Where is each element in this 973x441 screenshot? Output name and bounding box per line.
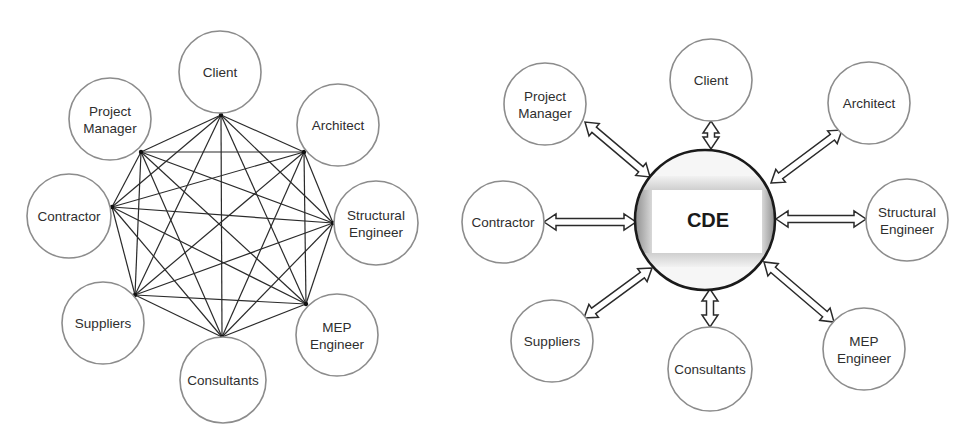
stakeholder-label: Manager	[518, 106, 572, 121]
stakeholder-label: MEP	[849, 334, 878, 349]
stakeholder-architect: Architect	[828, 62, 910, 144]
bidirectional-arrow-icon	[764, 262, 834, 322]
stakeholder-circle	[69, 78, 151, 160]
stakeholder-client: Client	[670, 39, 752, 121]
junction-dot	[139, 150, 143, 154]
stakeholder-structural-engineer: StructuralEngineer	[866, 179, 948, 261]
stakeholder-label: Architect	[312, 118, 365, 133]
mesh-connections	[112, 115, 333, 337]
mesh-edge	[141, 152, 222, 337]
stakeholder-label: Engineer	[880, 222, 935, 237]
stakeholder-suppliers: Suppliers	[511, 300, 593, 382]
stakeholder-architect: Architect	[297, 84, 379, 166]
stakeholder-label: Engineer	[837, 351, 892, 366]
mesh-edge	[221, 115, 306, 304]
stakeholder-consultants: Consultants	[668, 327, 752, 411]
stakeholder-label: Contractor	[37, 209, 101, 224]
cde-hub: CDE	[635, 150, 775, 290]
stakeholder-project-manager: ProjectManager	[69, 78, 151, 160]
stakeholder-consultants: Consultants	[180, 337, 266, 423]
bidirectional-arrow-icon	[544, 214, 636, 230]
stakeholder-label: Manager	[83, 121, 137, 136]
mesh-edge	[141, 115, 221, 152]
mesh-edge	[304, 152, 306, 304]
stakeholder-suppliers: Suppliers	[62, 282, 144, 364]
stakeholder-circle	[334, 181, 418, 265]
stakeholder-label: Project	[524, 89, 566, 104]
stakeholder-circle	[504, 63, 586, 145]
stakeholder-communication-diagram: ClientArchitectStructuralEngineerMEPEngi…	[0, 0, 973, 441]
stakeholder-label: Suppliers	[524, 334, 581, 349]
stakeholder-circle	[866, 179, 948, 261]
bidirectional-arrow-icon	[771, 130, 842, 183]
stakeholder-contractor: Contractor	[27, 174, 111, 258]
point-to-point-network-panel: ClientArchitectStructuralEngineerMEPEngi…	[27, 31, 418, 423]
stakeholder-label: Structural	[878, 205, 936, 220]
stakeholder-mep-engineer: MEPEngineer	[823, 308, 905, 390]
stakeholder-structural-engineer: StructuralEngineer	[334, 181, 418, 265]
stakeholder-project-manager: ProjectManager	[504, 63, 586, 145]
mesh-edge	[135, 152, 141, 295]
bidirectional-arrow-icon	[703, 121, 719, 149]
stakeholder-circle	[296, 294, 378, 376]
stakeholder-label: Engineer	[310, 337, 365, 352]
stakeholder-client: Client	[179, 31, 261, 113]
stakeholder-label: Client	[203, 65, 238, 80]
stakeholder-label: Consultants	[187, 373, 259, 388]
bidirectional-arrow-icon	[584, 268, 652, 318]
stakeholder-contractor: Contractor	[462, 181, 544, 263]
mesh-edge	[135, 295, 306, 304]
cde-label: CDE	[687, 209, 729, 231]
stakeholder-label: Consultants	[674, 362, 746, 377]
mesh-edge	[221, 115, 304, 152]
stakeholder-label: Contractor	[471, 215, 535, 230]
stakeholder-label: Engineer	[349, 225, 404, 240]
cde-hub-panel: CDE ClientArchitectStructuralEngineerMEP…	[462, 39, 948, 411]
bidirectional-arrow-icon	[702, 289, 718, 327]
mesh-edge	[306, 223, 333, 304]
bidirectional-arrow-icon	[585, 122, 650, 177]
stakeholder-label: Architect	[843, 96, 896, 111]
stakeholder-label: Client	[694, 73, 729, 88]
stakeholder-label: Project	[89, 104, 131, 119]
stakeholder-label: Suppliers	[75, 316, 132, 331]
stakeholder-label: Structural	[347, 208, 405, 223]
mesh-edge	[135, 295, 222, 337]
stakeholder-circle	[823, 308, 905, 390]
stakeholder-label: MEP	[322, 320, 351, 335]
bidirectional-arrow-icon	[776, 211, 866, 227]
stakeholder-mep-engineer: MEPEngineer	[296, 294, 378, 376]
